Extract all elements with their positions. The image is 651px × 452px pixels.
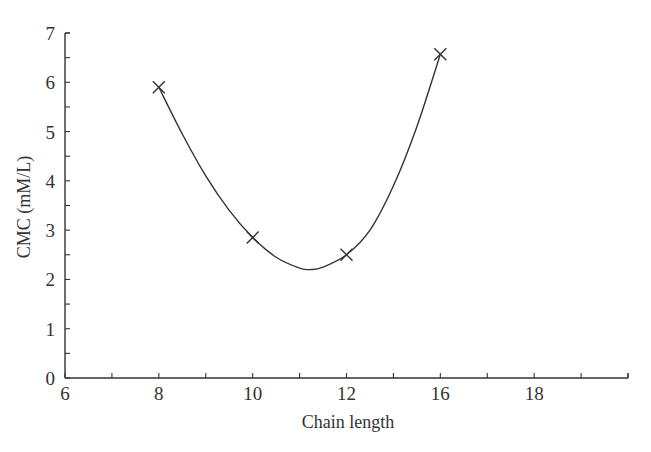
x-tick-label: 6 <box>60 383 70 404</box>
y-tick-label: 3 <box>46 220 56 241</box>
y-tick-label: 6 <box>46 72 56 93</box>
x-axis-title: Chain length <box>302 412 395 432</box>
y-axis-title: CMC (mM/L) <box>14 156 35 259</box>
x-tick-label: 16 <box>431 383 450 404</box>
y-tick-label: 1 <box>46 319 56 340</box>
x-marker <box>434 48 446 60</box>
axes <box>65 33 628 378</box>
tick-labels: 012345676810121618 <box>46 23 544 404</box>
x-marker <box>341 249 353 261</box>
x-marker <box>153 81 165 93</box>
y-tick-label: 0 <box>46 368 56 389</box>
y-tick-label: 4 <box>46 171 56 192</box>
y-tick-label: 2 <box>46 269 56 290</box>
fitted-curve <box>159 54 441 270</box>
x-tick-label: 18 <box>525 383 544 404</box>
data-markers <box>153 48 447 261</box>
x-tick-label: 12 <box>337 383 356 404</box>
y-tick-label: 7 <box>46 23 56 44</box>
x-tick-label: 10 <box>243 383 262 404</box>
x-marker <box>247 232 259 244</box>
x-tick-label: 8 <box>154 383 164 404</box>
cmc-chain-length-chart: 012345676810121618 Chain length CMC (mM/… <box>0 0 651 452</box>
y-tick-label: 5 <box>46 122 56 143</box>
